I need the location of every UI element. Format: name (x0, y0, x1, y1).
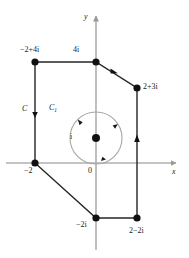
vertex-label-right-upper: 2+3i (143, 83, 158, 91)
contour-c1-arrow-lower (101, 157, 106, 161)
vertex-label-bottom-right: 2−2i (129, 227, 144, 235)
vertex-label-top-center: 4i (73, 46, 79, 54)
vertex-label-top-left: −2+4i (20, 46, 39, 54)
contour-c-arrow-left-edge (32, 112, 38, 118)
contour-diagram-canvas (0, 0, 189, 258)
contour-c1-arrow-upper-right (113, 124, 118, 129)
complex-plane-contour-figure: y x 0 −2+4i 4i 2+3i −2 −2i 2−2i i C C1 (0, 0, 189, 258)
contour-c1-arrow-upper-left (78, 120, 83, 126)
vertex-label-left-axis: −2 (24, 167, 33, 175)
contour-c1-label: C1 (49, 104, 57, 112)
vertex-dot-bottom-right (133, 214, 140, 221)
vertex-dot-bottom-center (92, 214, 99, 221)
contour-c-group (31, 58, 140, 221)
y-axis-label: y (84, 13, 88, 21)
vertex-dot-top-center (92, 58, 99, 65)
x-axis-label: x (172, 168, 176, 176)
vertex-label-bottom-center: −2i (76, 221, 87, 229)
contour-c-arrow-diagonal-top (111, 68, 118, 73)
contour-c1-label-sub: 1 (54, 107, 57, 113)
circle-center-label: i (70, 133, 72, 141)
vertex-dot-top-left (31, 58, 38, 65)
vertex-dot-right-upper (133, 84, 140, 91)
contour-c-label: C (22, 105, 27, 113)
contour-c-arrow-right-edge (134, 135, 140, 143)
circle-center-point (92, 134, 100, 142)
origin-label: 0 (88, 167, 92, 175)
